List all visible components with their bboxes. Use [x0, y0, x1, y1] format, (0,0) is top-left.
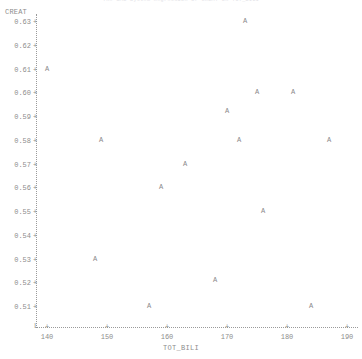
- x-tick-mark: +: [45, 324, 49, 331]
- x-tick-mark: +: [165, 324, 169, 331]
- x-tick-label: 160: [152, 334, 182, 341]
- data-point: A: [211, 277, 219, 284]
- x-tick-mark: +: [285, 324, 289, 331]
- y-tick-label: 0.55: [0, 209, 31, 216]
- y-tick-mark: +: [33, 162, 37, 169]
- y-tick-label: 0.54: [0, 233, 31, 240]
- y-tick-mark: +: [33, 43, 37, 50]
- x-tick-label: 150: [92, 334, 122, 341]
- data-point: A: [223, 108, 231, 115]
- x-axis-label: TOT_BILI: [0, 345, 362, 352]
- x-tick-label: 140: [32, 334, 62, 341]
- y-tick-label: 0.56: [0, 185, 31, 192]
- y-tick-label: 0.62: [0, 43, 31, 50]
- x-tick-label: 170: [212, 334, 242, 341]
- y-tick-label: 0.53: [0, 257, 31, 264]
- data-point: A: [157, 184, 165, 191]
- data-point: A: [241, 18, 249, 25]
- y-tick-label: 0.63: [0, 19, 31, 26]
- data-point: A: [259, 208, 267, 215]
- y-tick-label: 0.52: [0, 280, 31, 287]
- axis-origin-corner: L: [34, 323, 38, 330]
- data-point: A: [91, 256, 99, 263]
- y-tick-label: 0.58: [0, 138, 31, 145]
- y-tick-mark: +: [33, 138, 37, 145]
- y-tick-label: 0.60: [0, 90, 31, 97]
- y-tick-mark: +: [33, 209, 37, 216]
- y-tick-label: 0.61: [0, 67, 31, 74]
- data-point: A: [97, 137, 105, 144]
- x-tick-mark: +: [105, 324, 109, 331]
- y-tick-mark: +: [33, 90, 37, 97]
- data-point: A: [289, 89, 297, 96]
- y-tick-mark: +: [33, 185, 37, 192]
- y-tick-mark: +: [33, 114, 37, 121]
- data-point: A: [235, 137, 243, 144]
- y-tick-label: 0.57: [0, 162, 31, 169]
- y-tick-mark: +: [33, 67, 37, 74]
- data-point: A: [325, 137, 333, 144]
- y-tick-mark: +: [33, 280, 37, 287]
- data-point: A: [307, 303, 315, 310]
- data-point: A: [145, 303, 153, 310]
- y-axis-label: CREAT: [5, 9, 27, 16]
- chart-title: The SAS System Regression of CREAT on TO…: [0, 0, 362, 3]
- x-tick-mark: +: [345, 324, 349, 331]
- y-tick-label: 0.51: [0, 304, 31, 311]
- x-tick-label: 190: [332, 334, 362, 341]
- y-tick-mark: +: [33, 257, 37, 264]
- y-tick-mark: +: [33, 233, 37, 240]
- scatter-plot: The SAS System Regression of CREAT on TO…: [0, 0, 362, 359]
- y-tick-mark: +: [33, 304, 37, 311]
- x-axis-line: [36, 327, 358, 328]
- data-point: A: [43, 66, 51, 73]
- y-tick-label: 0.59: [0, 114, 31, 121]
- data-point: A: [181, 161, 189, 168]
- x-tick-label: 180: [272, 334, 302, 341]
- data-point: A: [253, 89, 261, 96]
- y-tick-mark: +: [33, 19, 37, 26]
- x-tick-mark: +: [225, 324, 229, 331]
